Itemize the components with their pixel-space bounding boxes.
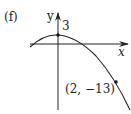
y-intercept-point: [56, 33, 59, 36]
graph-canvas: [0, 0, 131, 114]
panel-label: (f): [4, 11, 18, 23]
point-label: (2, −13): [65, 83, 115, 95]
x-axis-label: x: [118, 46, 125, 58]
y-intercept-label: 3: [62, 20, 70, 32]
parabola-figure: (f) y 3 x (2, −13): [0, 0, 131, 114]
y-axis-label: y: [47, 10, 54, 22]
parabola-curve: [30, 35, 130, 110]
